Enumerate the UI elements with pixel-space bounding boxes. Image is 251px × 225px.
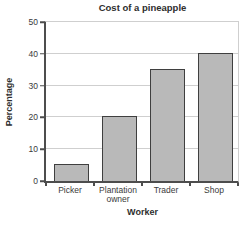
chart-title: Cost of a pineapple bbox=[44, 2, 241, 13]
y-tick-mark-30 bbox=[40, 85, 44, 87]
x-category-label-shop: Shop bbox=[186, 186, 242, 195]
y-axis-label: Percentage bbox=[4, 78, 14, 127]
x-axis-label: Worker bbox=[44, 207, 241, 217]
y-tick-mark-20 bbox=[40, 117, 44, 119]
y-tick-mark-40 bbox=[40, 53, 44, 55]
y-tick-mark-10 bbox=[40, 148, 44, 150]
y-tick-label-10: 10 bbox=[16, 144, 38, 154]
y-tick-label-30: 30 bbox=[16, 81, 38, 91]
y-tick-label-20: 20 bbox=[16, 112, 38, 122]
bar-shop bbox=[198, 53, 233, 181]
y-tick-mark-50 bbox=[40, 21, 44, 23]
bar-picker bbox=[54, 164, 89, 181]
bar-plantation-owner bbox=[102, 116, 137, 181]
y-tick-label-40: 40 bbox=[16, 49, 38, 59]
bar-chart: Cost of a pineapple Percentage 010203040… bbox=[0, 0, 251, 225]
y-tick-label-50: 50 bbox=[16, 17, 38, 27]
bar-trader bbox=[150, 69, 185, 181]
plot-area bbox=[44, 21, 239, 183]
y-tick-mark-0 bbox=[40, 180, 44, 182]
y-tick-label-0: 0 bbox=[16, 176, 38, 186]
